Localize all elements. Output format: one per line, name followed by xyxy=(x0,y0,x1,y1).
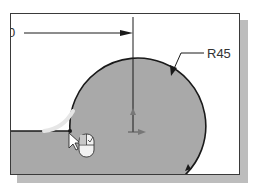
sketch-viewport[interactable]: 0 R45 xyxy=(10,13,240,175)
horizontal-dimension-label[interactable]: 0 xyxy=(10,25,15,40)
radius-leader-line xyxy=(173,53,204,71)
mouse-left-click-icon xyxy=(79,134,94,157)
fillet-highlight xyxy=(44,111,73,131)
sketch-profile-fill xyxy=(11,58,206,175)
dimension-arrowhead-icon xyxy=(120,30,133,36)
radius-dimension-label[interactable]: R45 xyxy=(207,46,231,61)
sketch-canvas[interactable] xyxy=(11,14,240,175)
